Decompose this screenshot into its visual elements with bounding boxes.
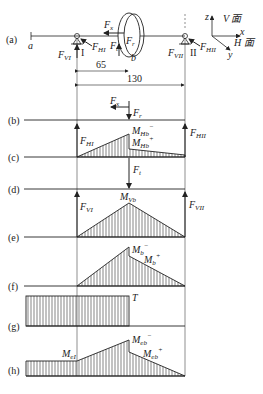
- svg-text:FVI: FVI: [57, 49, 71, 62]
- svg-text:Fr: Fr: [132, 107, 142, 120]
- svg-text:(e): (e): [8, 232, 19, 244]
- svg-text:V 面: V 面: [223, 13, 243, 24]
- svg-text:FHII: FHII: [199, 41, 216, 54]
- point-b-label: b: [131, 52, 136, 63]
- panel-c: (c) FHI FHII MHb− MHb+: [8, 123, 206, 164]
- panel-a-tag: (a): [6, 34, 17, 46]
- svg-text:Ft: Ft: [109, 40, 119, 53]
- svg-text:(f): (f): [8, 281, 18, 293]
- svg-text:FVII: FVII: [188, 199, 205, 212]
- svg-text:(d): (d): [8, 184, 20, 196]
- support-i-label: I: [81, 47, 84, 58]
- panel-e: (e) FVI FVII MVb: [8, 191, 205, 244]
- svg-text:FVII: FVII: [167, 47, 184, 60]
- panel-a: (a) a I b II Fx Fr Ft FVI FH: [6, 11, 256, 85]
- shaft-diagram: (a) a I b II Fx Fr Ft FVI FH: [0, 0, 263, 394]
- panel-g: (g) T: [8, 292, 185, 333]
- svg-text:Fx: Fx: [103, 19, 114, 32]
- svg-text:T: T: [132, 292, 139, 303]
- svg-text:Ft: Ft: [132, 164, 142, 177]
- svg-text:x: x: [239, 26, 245, 37]
- dim-65: 65: [96, 59, 106, 70]
- svg-text:(b): (b): [8, 115, 20, 127]
- svg-text:z: z: [204, 11, 209, 22]
- svg-text:FHII: FHII: [189, 127, 206, 140]
- panel-f: (f) Mb− Mb+: [8, 242, 185, 293]
- support-ii-label: II: [190, 47, 197, 58]
- svg-text:(c): (c): [8, 152, 19, 164]
- svg-text:Fx: Fx: [109, 95, 120, 108]
- svg-text:(h): (h): [8, 365, 20, 377]
- svg-text:FHI: FHI: [79, 135, 94, 148]
- point-a-label: a: [28, 40, 33, 51]
- svg-text:Meb+: Meb+: [142, 346, 163, 361]
- svg-text:MeI: MeI: [61, 348, 76, 361]
- svg-text:FHI: FHI: [91, 41, 106, 54]
- panel-h: (h) MeI Meb− Meb+: [8, 332, 185, 377]
- svg-text:FVI: FVI: [79, 201, 93, 214]
- svg-text:Meb−: Meb−: [131, 332, 152, 347]
- svg-text:MVb: MVb: [119, 191, 137, 204]
- svg-text:y: y: [227, 49, 233, 60]
- dim-130: 130: [127, 73, 142, 84]
- svg-text:Mb+: Mb+: [143, 252, 161, 267]
- panel-b: (b) Fx Fr: [8, 95, 185, 127]
- svg-text:H 面: H 面: [233, 37, 256, 48]
- svg-text:(g): (g): [8, 321, 20, 333]
- panel-d: (d) Ft: [8, 158, 185, 196]
